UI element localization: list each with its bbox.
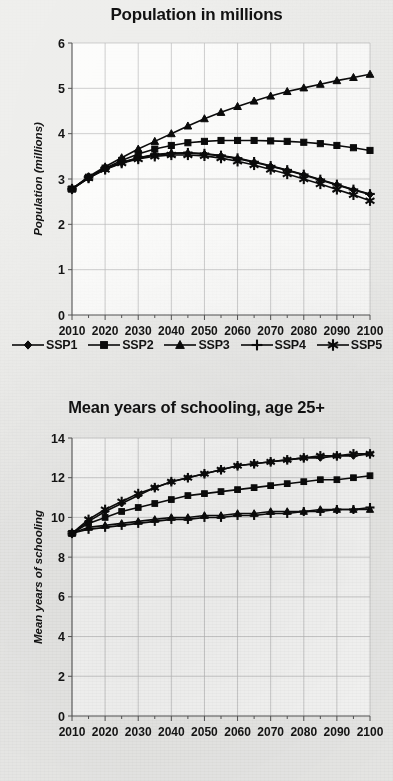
legend-label: SSP5: [351, 338, 382, 352]
legend-label: SSP2: [122, 338, 153, 352]
square-marker: [317, 477, 323, 483]
y-tick-label: 12: [51, 471, 65, 485]
plus-marker: [240, 337, 274, 353]
square-marker: [268, 483, 274, 489]
figure-schooling: Mean years of schooling, age 25+ 0246810…: [0, 390, 393, 781]
x-tick-label: 2010: [59, 324, 86, 335]
square-marker: [168, 497, 174, 503]
square-marker: [367, 473, 373, 479]
chart-title-schooling: Mean years of schooling, age 25+: [0, 390, 393, 416]
y-tick-label: 3: [58, 172, 65, 186]
diamond-marker: [11, 337, 45, 353]
square-marker: [152, 501, 158, 507]
square-marker: [251, 485, 257, 491]
schooling-plot: 0246810121420102020203020402050206020702…: [0, 416, 393, 766]
legend-item-ssp4[interactable]: SSP4: [240, 337, 306, 353]
x-tick-label: 2100: [357, 324, 384, 335]
square-marker: [334, 142, 340, 148]
figure-population: Population in millions 01234562010202020…: [0, 0, 393, 390]
square-marker: [235, 137, 241, 143]
y-tick-label: 8: [58, 551, 65, 565]
x-tick-label: 2090: [324, 324, 351, 335]
y-axis-title: Population (millions): [32, 122, 44, 236]
y-tick-label: 14: [51, 432, 65, 446]
square-marker: [351, 475, 357, 481]
y-tick-label: 0: [58, 710, 65, 724]
legend-item-ssp3[interactable]: SSP3: [163, 337, 229, 353]
square-marker: [251, 137, 257, 143]
x-tick-label: 2100: [357, 725, 384, 739]
x-tick-label: 2030: [125, 324, 152, 335]
y-tick-label: 5: [58, 82, 65, 96]
chart-title-population: Population in millions: [0, 0, 393, 25]
square-marker: [101, 341, 108, 348]
asterisk-marker: [316, 337, 350, 353]
diamond-marker: [24, 341, 32, 349]
legend-label: SSP1: [46, 338, 77, 352]
legend-item-ssp1[interactable]: SSP1: [11, 337, 77, 353]
x-tick-label: 2090: [324, 725, 351, 739]
square-marker: [135, 505, 141, 511]
legend-item-ssp5[interactable]: SSP5: [316, 337, 382, 353]
y-tick-label: 2: [58, 218, 65, 232]
x-tick-label: 2050: [191, 324, 218, 335]
y-tick-label: 1: [58, 263, 65, 277]
legend-item-ssp2[interactable]: SSP2: [87, 337, 153, 353]
y-tick-label: 6: [58, 590, 65, 604]
square-marker: [284, 138, 290, 144]
y-tick-label: 0: [58, 308, 65, 322]
y-tick-label: 4: [58, 630, 65, 644]
x-tick-label: 2070: [257, 725, 284, 739]
y-tick-label: 6: [58, 36, 65, 50]
x-tick-label: 2080: [290, 725, 317, 739]
x-tick-label: 2040: [158, 324, 185, 335]
chart-legend: SSP1SSP2SSP3SSP4SSP5: [0, 337, 393, 353]
x-tick-label: 2020: [92, 324, 119, 335]
y-axis-title: Mean years of schooling: [32, 510, 44, 644]
square-marker: [168, 142, 174, 148]
square-marker: [301, 479, 307, 485]
x-tick-label: 2060: [224, 725, 251, 739]
x-tick-label: 2040: [158, 725, 185, 739]
population-plot: 0123456201020202030204020502060207020802…: [0, 25, 393, 335]
square-marker: [201, 138, 207, 144]
square-marker: [350, 144, 356, 150]
square-marker: [185, 493, 191, 499]
square-marker: [284, 481, 290, 487]
square-marker: [334, 477, 340, 483]
square-marker: [202, 491, 208, 497]
x-tick-label: 2050: [191, 725, 218, 739]
legend-label: SSP4: [275, 338, 306, 352]
triangle-marker: [163, 337, 197, 353]
x-tick-label: 2020: [92, 725, 119, 739]
y-tick-label: 4: [58, 127, 65, 141]
square-marker: [87, 337, 121, 353]
square-marker: [268, 138, 274, 144]
square-marker: [218, 489, 224, 495]
square-marker: [102, 515, 108, 521]
square-marker: [235, 487, 241, 493]
x-tick-label: 2070: [257, 324, 284, 335]
x-tick-label: 2080: [290, 324, 317, 335]
square-marker: [185, 139, 191, 145]
legend-label: SSP3: [198, 338, 229, 352]
y-tick-label: 10: [51, 511, 65, 525]
x-tick-label: 2030: [125, 725, 152, 739]
square-marker: [119, 509, 125, 515]
x-tick-label: 2060: [224, 324, 251, 335]
square-marker: [301, 139, 307, 145]
square-marker: [218, 137, 224, 143]
x-tick-label: 2010: [59, 725, 86, 739]
square-marker: [317, 140, 323, 146]
square-marker: [367, 147, 373, 153]
y-tick-label: 2: [58, 670, 65, 684]
